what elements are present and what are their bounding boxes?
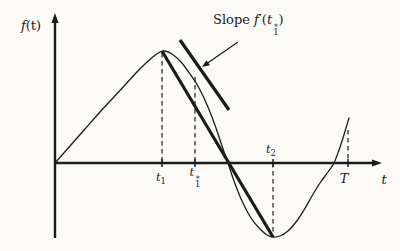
- figure: f(t) Slope f′(t∗1) t1 t∗1 t2 T t: [0, 0, 400, 251]
- t2-sub: 2: [271, 148, 276, 158]
- slope-t: t: [267, 12, 272, 27]
- t1star-subsup: ∗1: [195, 175, 200, 187]
- secant-chord-line: [162, 51, 273, 237]
- annotation-arrow: [207, 42, 238, 64]
- function-curve: [55, 51, 349, 237]
- t1star-one: 1: [195, 181, 200, 187]
- T-base: T: [340, 171, 349, 186]
- t1star-base: t: [189, 165, 194, 179]
- t1-label: t1: [156, 172, 166, 184]
- x-axis-label: t: [381, 173, 386, 186]
- slope-word: Slope: [213, 12, 254, 27]
- y-axis-label-args: (t): [26, 18, 41, 33]
- x-axis-arrowhead: [372, 159, 382, 166]
- t1-star-label: t∗1: [189, 167, 200, 187]
- x-axis-label-t: t: [381, 172, 386, 187]
- figure-canvas: [0, 0, 400, 251]
- slope-annotation-label: Slope f′(t∗1): [213, 13, 284, 35]
- T-label: T: [340, 172, 349, 185]
- slope-paren-close: ): [279, 12, 284, 27]
- annotation-arrowhead: [202, 60, 210, 67]
- t1-sub: 1: [161, 176, 166, 186]
- y-axis-label: f(t): [21, 19, 41, 32]
- y-axis-arrowhead: [51, 13, 58, 23]
- t2-label: t2: [266, 144, 276, 156]
- slope-t-one: 1: [273, 29, 278, 35]
